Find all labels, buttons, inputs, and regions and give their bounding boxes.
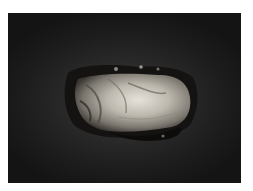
specimen-photo: Photograph of a pale, irregular oval tis… (8, 13, 241, 183)
specimen-image (8, 13, 241, 183)
